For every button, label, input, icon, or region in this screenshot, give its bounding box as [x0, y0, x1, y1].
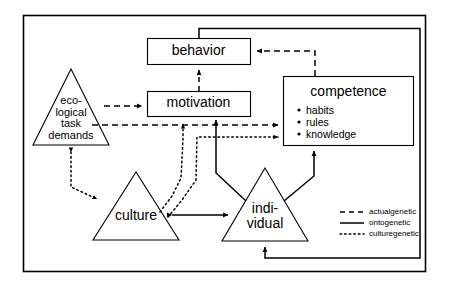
edge-individual-to-competence [284, 151, 314, 201]
ecological-label: eco- logical task demands [41, 95, 101, 142]
edge-culture-to-motivation [160, 124, 183, 212]
diagram-canvas: behavior motivation competence habits ru… [0, 0, 451, 288]
legend-label-ontogenetic: ontogenetic [369, 218, 410, 227]
individual-label: indi- vidual [235, 201, 295, 231]
behavior-label: behavior [147, 43, 250, 58]
competence-item-habits: habits [306, 104, 334, 116]
legend-label-culturegenetic: culturegenetic [369, 229, 419, 238]
edge-individual-to-motivation [216, 120, 246, 201]
culture-label: culture [106, 208, 166, 223]
bullet-dot [297, 132, 300, 135]
edge-competence-to-behavior [257, 51, 315, 76]
motivation-label: motivation [147, 95, 250, 110]
competence-item-rules: rules [306, 116, 329, 128]
edge-ecological-culture [71, 152, 97, 199]
culture-triangle [93, 172, 179, 240]
bullet-dot [297, 108, 300, 111]
competence-label: competence [284, 84, 413, 99]
competence-item-knowledge: knowledge [306, 128, 356, 140]
legend-label-actualgenetic: actualgenetic [369, 207, 416, 216]
bullet-dot [297, 120, 300, 123]
